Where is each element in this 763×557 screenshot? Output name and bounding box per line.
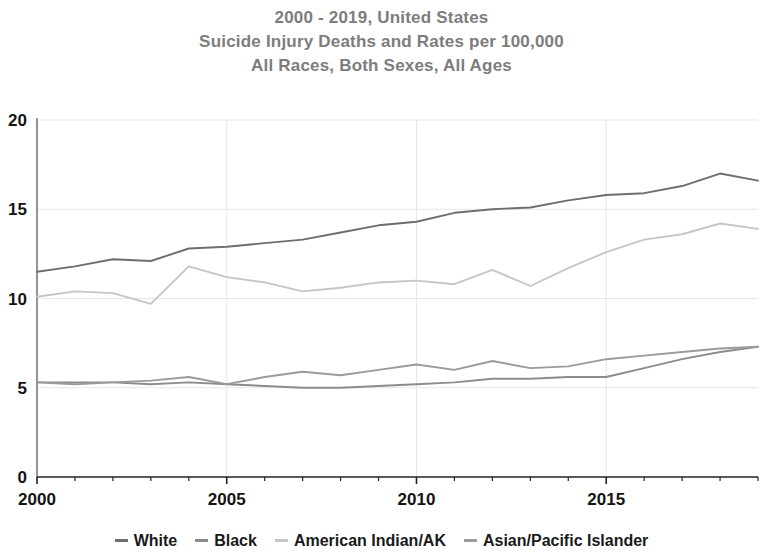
series-line-american-indian-ak [37, 224, 758, 304]
tick-labels-group: 051015202000200520102015 [8, 111, 625, 509]
x-tick-label: 2005 [208, 490, 246, 509]
legend-item[interactable]: Black [195, 531, 257, 550]
y-tick-label: 20 [8, 111, 27, 130]
line-dash-marker [195, 539, 208, 542]
chart-title: 2000 - 2019, United States Suicide Injur… [0, 6, 763, 78]
legend-item-label: Black [214, 532, 257, 550]
chart-title-line-3: All Races, Both Sexes, All Ages [0, 54, 763, 78]
x-tick-label: 2015 [587, 490, 625, 509]
y-tick-label: 0 [18, 468, 27, 487]
legend-item-label: American Indian/AK [294, 532, 446, 550]
chart-legend: WhiteBlackAmerican Indian/AKAsian/Pacifi… [0, 531, 763, 550]
x-tick-label: 2010 [398, 490, 436, 509]
x-tick-label: 2000 [18, 490, 56, 509]
legend-item-label: Asian/Pacific Islander [483, 532, 648, 550]
gridlines-group [37, 120, 758, 477]
chart-figure: 2000 - 2019, United States Suicide Injur… [0, 0, 763, 557]
chart-title-line-1: 2000 - 2019, United States [0, 6, 763, 30]
line-dash-marker [275, 539, 288, 542]
line-dash-marker [464, 539, 477, 542]
legend-item[interactable]: American Indian/AK [275, 531, 446, 550]
ticks-group [37, 477, 758, 484]
axes-group [37, 118, 758, 477]
chart-title-line-2: Suicide Injury Deaths and Rates per 100,… [0, 30, 763, 54]
line-dash-marker [115, 539, 128, 542]
y-tick-label: 5 [18, 379, 27, 398]
line-chart-plot: 051015202000200520102015 [0, 0, 763, 520]
series-group [37, 174, 758, 388]
y-tick-label: 10 [8, 290, 27, 309]
legend-item[interactable]: Asian/Pacific Islander [464, 531, 648, 550]
y-tick-label: 15 [8, 200, 27, 219]
series-line-asian-pacific-islander [37, 347, 758, 384]
legend-item[interactable]: White [115, 531, 178, 550]
series-line-white [37, 174, 758, 272]
legend-item-label: White [134, 532, 178, 550]
